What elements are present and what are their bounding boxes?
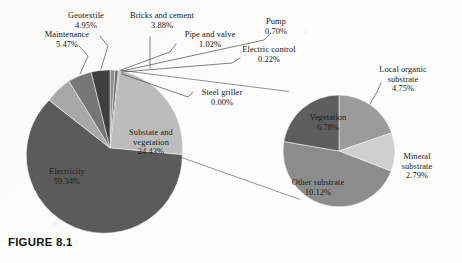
- label-mineral-name-1: Mineral: [403, 152, 430, 161]
- label-pipe-name: Pipe and valve: [185, 30, 236, 39]
- figure-container: Geotextile 4.95% Bricks and cement 3.88%…: [0, 0, 462, 263]
- label-bricks-and-cement: Bricks and cement 3.88%: [117, 11, 207, 30]
- label-mineral-substrate: Mineral substrate 2.79%: [391, 152, 443, 181]
- label-bricks-pct: 3.88%: [117, 21, 207, 31]
- label-geotextile: Geotextile 4.95%: [58, 11, 114, 30]
- label-substate-pct: 24.43%: [117, 147, 185, 157]
- label-maintenance: Maintenance 5.47%: [34, 30, 100, 49]
- label-geotextile-pct: 4.95%: [58, 21, 114, 31]
- label-electricity: Electricity 59.34%: [38, 167, 96, 186]
- label-pump: Pump 0.70%: [255, 17, 297, 36]
- label-vegetation-name: Vegetation: [310, 113, 347, 122]
- label-vegetation-pct: 6.78%: [300, 123, 356, 133]
- label-mineral-pct: 2.79%: [391, 171, 443, 181]
- label-mineral-name-2: substrate: [391, 162, 443, 172]
- label-substate-and-vegetation: Substate and vegetation 24.43%: [117, 128, 185, 157]
- label-local-organic-pct: 4.75%: [370, 84, 436, 94]
- label-electric-control-pct: 0.22%: [231, 55, 307, 65]
- label-steel-griller-name: Steel griller: [202, 88, 243, 97]
- label-other-substrate-name: Other substrate: [292, 178, 344, 187]
- label-pump-name: Pump: [266, 17, 286, 26]
- label-bricks-name: Bricks and cement: [130, 11, 194, 20]
- label-local-organic-name-1: Local organic: [379, 65, 426, 74]
- leader-electric-control: [122, 58, 240, 72]
- label-electricity-name: Electricity: [49, 167, 85, 176]
- label-maintenance-pct: 5.47%: [34, 40, 100, 50]
- label-electric-control: Electric control 0.22%: [231, 45, 307, 64]
- leader-pipe: [121, 44, 176, 70]
- label-local-organic-name-2: substrate: [370, 75, 436, 85]
- label-steel-griller-pct: 0.00%: [192, 98, 252, 108]
- label-pump-pct: 0.70%: [255, 27, 297, 37]
- label-steel-griller: Steel griller 0.00%: [192, 88, 252, 107]
- label-vegetation: Vegetation 6.78%: [300, 113, 356, 132]
- label-electric-control-name: Electric control: [242, 45, 295, 54]
- leader-maintenance: [79, 46, 88, 74]
- leader-geotextile: [100, 36, 108, 69]
- label-electricity-pct: 59.34%: [38, 177, 96, 187]
- label-other-substrate: Other substrate 10.12%: [280, 178, 356, 197]
- label-local-organic-substrate: Local organic substrate 4.75%: [370, 65, 436, 94]
- label-other-substrate-pct: 10.12%: [280, 188, 356, 198]
- figure-caption: FIGURE 8.1: [8, 236, 73, 248]
- label-substate-name-2: vegetation: [117, 138, 185, 148]
- label-substate-name-1: Substate and: [129, 128, 173, 137]
- label-maintenance-name: Maintenance: [45, 30, 89, 39]
- label-geotextile-name: Geotextile: [68, 11, 104, 20]
